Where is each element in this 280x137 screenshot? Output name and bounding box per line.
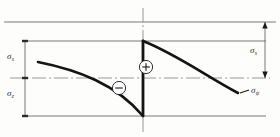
positive-stress-curve <box>143 41 238 93</box>
negative-sign-marker <box>112 81 125 94</box>
negative-stress-curve <box>38 62 143 116</box>
right-dimension-arrow-top <box>262 22 267 29</box>
sigma-top-left-symbol: σ <box>7 51 11 61</box>
positive-sign-marker <box>139 60 152 73</box>
sigma-right-symbol: σ <box>250 45 254 55</box>
figure-canvas <box>0 0 280 137</box>
sigma-top-left-subscript: s <box>12 56 14 62</box>
sigma-bottom-left-label: σz <box>7 89 14 99</box>
sigma-psi-subscript: ψ <box>256 90 259 96</box>
sigma-bottom-left-subscript: z <box>12 93 14 99</box>
right-dimension-arrow-bottom <box>262 72 267 79</box>
sigma-bottom-left-symbol: σ <box>7 88 11 98</box>
stress-distribution-figure: σs σz σs σψ <box>0 0 280 137</box>
sigma-psi-symbol: σ <box>251 85 255 95</box>
sigma-top-left-label: σs <box>7 52 14 62</box>
sigma-right-label: σs <box>250 46 257 56</box>
sigma-right-subscript: s <box>255 50 257 56</box>
sigma-psi-leader-line <box>240 90 249 93</box>
sigma-psi-label: σψ <box>251 86 259 96</box>
